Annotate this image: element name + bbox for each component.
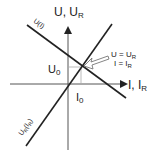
load-characteristic-line: [26, 24, 112, 146]
u0-label: U0: [48, 63, 61, 77]
y-axis-label: U, UR: [54, 5, 84, 20]
x-axis-label: I, IR: [128, 78, 147, 93]
operating-point-diagram: U, UR I, IR U(I) UR(IR) U0 I0 U = UR I =…: [0, 0, 158, 154]
annotation-current-equal: I = IR: [114, 59, 133, 69]
source-characteristic-line: [27, 25, 126, 98]
i0-label: I0: [76, 91, 84, 105]
source-line-label: U(I): [32, 17, 46, 30]
load-line-label: UR(IR): [17, 117, 35, 137]
